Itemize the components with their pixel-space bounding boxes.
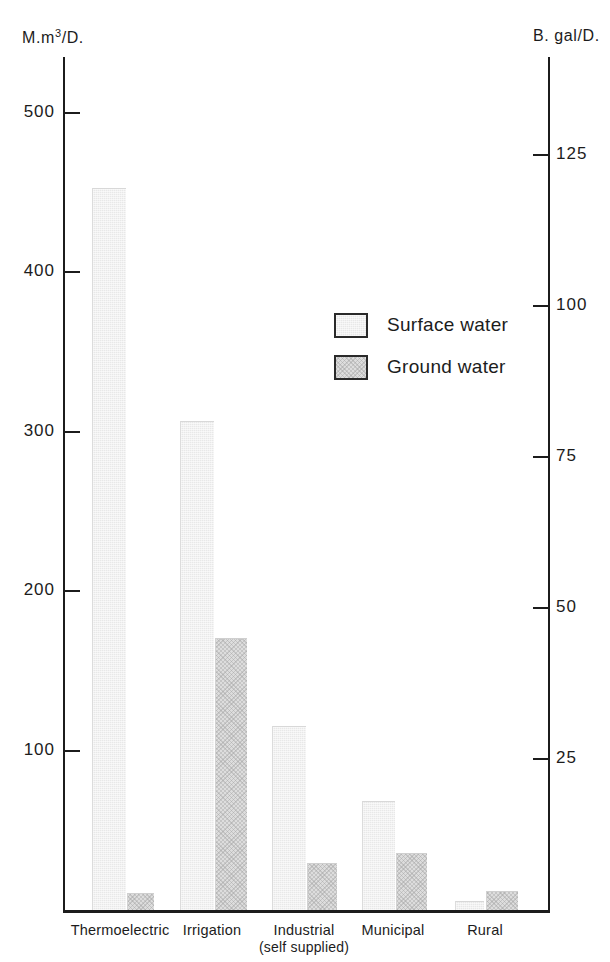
legend-item-ground-water: Ground water xyxy=(334,346,508,388)
surface-water-swatch xyxy=(334,313,368,338)
category-label-primary: Rural xyxy=(467,922,503,938)
right-axis-tick-label: 25 xyxy=(556,748,610,768)
right-axis-tick xyxy=(533,758,548,760)
x-axis-category-label: Irrigation xyxy=(183,922,241,939)
left-axis-unit-prefix: M.m xyxy=(22,29,55,46)
x-axis-category-label: Rural xyxy=(467,922,503,939)
left-axis-line xyxy=(63,57,65,912)
bar-municipal-surface-water xyxy=(362,801,395,910)
left-axis-unit-exponent: 3 xyxy=(55,27,62,39)
left-axis-tick-label: 200 xyxy=(7,580,55,600)
bar-municipal-ground-water xyxy=(396,853,427,910)
right-axis-tick xyxy=(533,607,548,609)
category-label-secondary: (self supplied) xyxy=(259,939,349,956)
bar-irrigation-ground-water xyxy=(215,638,247,910)
bar-irrigation-surface-water xyxy=(180,421,214,910)
left-axis-tick-label: 100 xyxy=(7,740,55,760)
legend-item-surface-water: Surface water xyxy=(334,304,508,346)
bar-rural-surface-water xyxy=(455,901,484,910)
plot-area: 100200300400500 255075100125 Surface wat… xyxy=(63,57,550,912)
left-axis-tick xyxy=(65,750,80,752)
chart-legend: Surface water Ground water xyxy=(334,304,508,388)
bar-industrial-surface-water xyxy=(272,726,306,910)
left-axis-tick xyxy=(65,431,80,433)
x-axis-category-label: Municipal xyxy=(361,922,424,939)
bar-thermoelectric-ground-water xyxy=(127,893,154,910)
x-axis-category-label: Industrial(self supplied) xyxy=(259,922,349,956)
bar-thermoelectric-surface-water xyxy=(92,188,126,910)
right-axis-tick-label: 50 xyxy=(556,597,610,617)
left-axis-tick xyxy=(65,590,80,592)
right-axis-tick xyxy=(533,154,548,156)
right-axis-line xyxy=(548,57,550,912)
left-axis-tick-label: 400 xyxy=(7,261,55,281)
x-axis-category-label: Thermoelectric xyxy=(71,922,170,939)
ground-water-swatch xyxy=(334,355,368,380)
left-axis-tick xyxy=(65,271,80,273)
legend-label-ground-water: Ground water xyxy=(387,356,506,378)
right-axis-tick-label: 75 xyxy=(556,446,610,466)
right-axis-tick-label: 100 xyxy=(556,295,610,315)
category-label-primary: Thermoelectric xyxy=(71,922,170,938)
left-axis-unit-label: M.m3/D. xyxy=(22,27,84,47)
bar-chart: M.m3/D. B. gal/D. 100200300400500 255075… xyxy=(0,0,610,962)
category-label-primary: Irrigation xyxy=(183,922,241,938)
right-axis-tick xyxy=(533,456,548,458)
bar-rural-ground-water xyxy=(486,891,518,910)
left-axis-tick-label: 300 xyxy=(7,421,55,441)
left-axis-tick-label: 500 xyxy=(7,102,55,122)
left-axis-tick xyxy=(65,112,80,114)
right-axis-unit-label: B. gal/D. xyxy=(533,27,600,45)
bar-industrial-ground-water xyxy=(307,863,337,910)
x-axis-baseline xyxy=(63,910,550,913)
category-label-primary: Industrial xyxy=(274,922,335,938)
legend-label-surface-water: Surface water xyxy=(387,314,508,336)
category-label-primary: Municipal xyxy=(361,922,424,938)
left-axis-unit-suffix: /D. xyxy=(62,29,84,46)
right-axis-tick-label: 125 xyxy=(556,144,610,164)
right-axis-tick xyxy=(533,305,548,307)
